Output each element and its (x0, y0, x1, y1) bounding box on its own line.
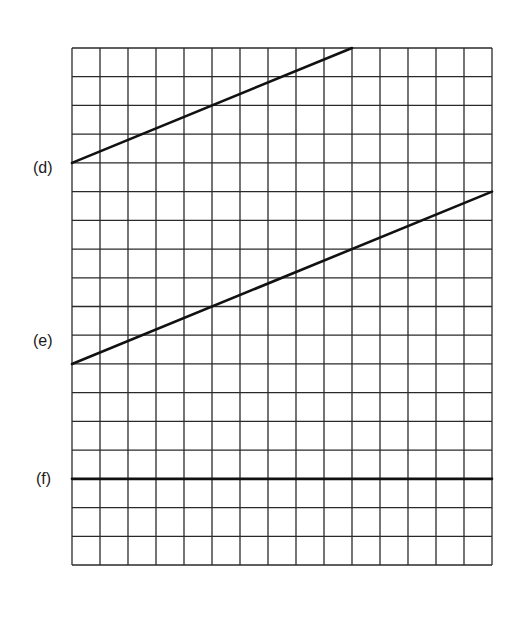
grid-lines (72, 48, 492, 565)
graph-grid-diagram (0, 0, 518, 619)
trace-label-d: (d) (33, 159, 53, 177)
trace-lines (72, 48, 492, 479)
trace-label-f: (f) (36, 470, 51, 488)
trace-label-e: (e) (33, 332, 53, 350)
